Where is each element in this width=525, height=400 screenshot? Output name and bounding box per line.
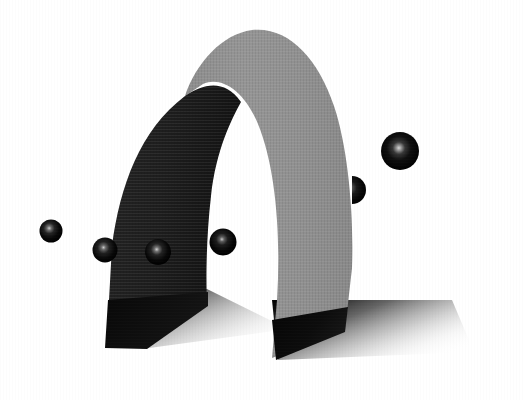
render-canvas xyxy=(0,0,525,400)
scene-svg xyxy=(0,0,525,400)
render-grain-overlay xyxy=(0,0,525,400)
